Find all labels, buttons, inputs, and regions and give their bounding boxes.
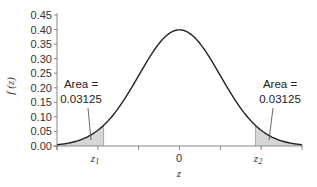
y-tick-label: 0.15 xyxy=(31,96,52,108)
y-axis-label: f(z) xyxy=(4,77,17,95)
shaded-tail-areas xyxy=(57,125,302,146)
right-tail-shade xyxy=(255,125,302,146)
right-area-annotation-line2: 0.03125 xyxy=(259,93,301,105)
y-tick-label: 0.30 xyxy=(31,53,52,65)
x-tick-label-z2: z2 xyxy=(253,152,262,166)
left-tail-shade xyxy=(57,125,104,146)
y-tick-label: 0.05 xyxy=(31,125,52,137)
x-axis-label: z xyxy=(176,167,182,179)
y-tick-label: 0.00 xyxy=(31,140,52,152)
y-tick-label: 0.35 xyxy=(31,38,52,50)
normal-distribution-chart: 0.000.050.100.150.200.250.300.350.400.45… xyxy=(0,0,317,187)
x-tick-label-z1: z1 xyxy=(90,152,99,166)
y-tick-label: 0.40 xyxy=(31,24,52,36)
right-area-annotation-line1: Area = xyxy=(263,78,297,90)
right-area-leader-line xyxy=(269,108,273,140)
y-tick-labels: 0.000.050.100.150.200.250.300.350.400.45 xyxy=(31,9,52,152)
left-area-annotation-line2: 0.03125 xyxy=(60,93,102,105)
y-tick-label: 0.10 xyxy=(31,111,52,123)
y-tick-label: 0.45 xyxy=(31,9,52,21)
y-tick-label: 0.20 xyxy=(31,82,52,94)
left-area-annotation-line1: Area = xyxy=(64,78,98,90)
x-tick-label-zero: 0 xyxy=(176,152,182,164)
y-tick-label: 0.25 xyxy=(31,67,52,79)
